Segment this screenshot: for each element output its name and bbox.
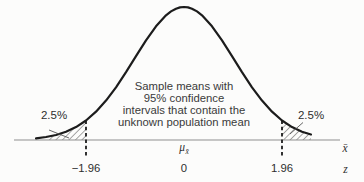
z-axis-label: z xyxy=(342,163,348,175)
figure-canvas: 2.5% 2.5% Sample means with 95% confiden… xyxy=(0,0,364,182)
z-tick-zero: 0 xyxy=(181,162,187,174)
center-annotation-line-4: unknown population mean xyxy=(118,116,250,128)
z-tick-positive-1-96: 1.96 xyxy=(271,162,293,174)
right-tail-percent-label: 2.5% xyxy=(298,109,324,121)
left-tail-percent-label: 2.5% xyxy=(41,109,67,121)
normal-distribution-figure: 2.5% 2.5% Sample means with 95% confiden… xyxy=(0,0,364,182)
center-annotation-line-2: 95% confidence xyxy=(144,92,224,104)
mu-symbol: μ xyxy=(178,141,185,154)
z-tick-negative-1-96: −1.96 xyxy=(72,162,101,174)
xbar-axis-label: x̄ xyxy=(341,142,348,154)
mu-subscript-xbar: x̄ xyxy=(185,147,190,156)
center-annotation-line-1: Sample means with xyxy=(135,80,234,92)
center-annotation-line-3: intervals that contain the xyxy=(123,104,245,116)
